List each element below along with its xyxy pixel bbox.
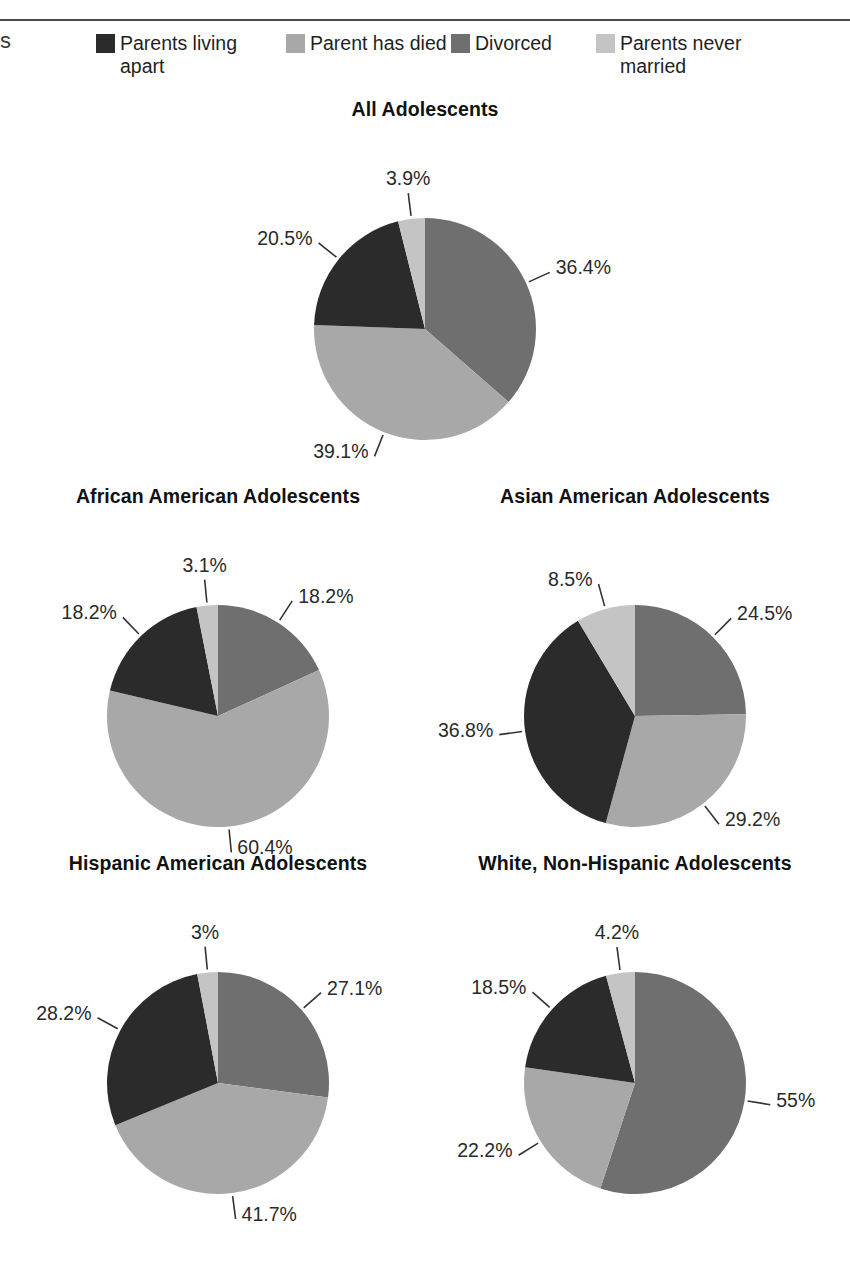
- pie-leader-line-2: [123, 617, 139, 634]
- pie-value-label-3: 3%: [191, 921, 219, 943]
- pie-leader-line-0: [304, 993, 321, 1008]
- pie-svg-4: 55%22.2%18.5%4.2%: [425, 852, 845, 1222]
- pie-slice-0[interactable]: [218, 972, 329, 1098]
- pie-value-label-3: 3.1%: [182, 554, 226, 576]
- legend-item-parent-has-died: Parent has died: [286, 32, 451, 55]
- legend-item-parents-living-apart: Parents living apart: [96, 32, 286, 78]
- pie-leader-line-3: [408, 193, 411, 216]
- pie-value-label-1: 22.2%: [457, 1139, 512, 1161]
- pie-leader-line-3: [205, 947, 207, 970]
- pie-svg-1: 18.2%60.4%18.2%3.1%: [8, 485, 428, 855]
- pie-svg-2: 24.5%29.2%36.8%8.5%: [425, 485, 845, 855]
- legend: Parents living apart Parent has died Div…: [96, 32, 796, 78]
- pie-leader-line-3: [598, 584, 604, 606]
- legend-label-2: Divorced: [475, 32, 552, 55]
- pie-leader-line-1: [229, 829, 231, 852]
- pie-value-label-1: 41.7%: [242, 1203, 297, 1222]
- pie-leader-line-3: [205, 580, 207, 603]
- legend-swatch-icon-3: [596, 34, 615, 53]
- legend-swatch-icon-1: [286, 34, 305, 53]
- pie-value-label-3: 4.2%: [595, 921, 639, 943]
- legend-label-3: Parents never married: [620, 32, 770, 78]
- legend-item-parents-never-married: Parents never married: [596, 32, 786, 78]
- pie-value-label-0: 55%: [776, 1089, 815, 1111]
- pie-value-label-0: 18.2%: [298, 585, 353, 607]
- pie-leader-line-1: [705, 806, 719, 824]
- pie-value-label-0: 36.4%: [556, 256, 611, 278]
- pie-leader-line-1: [233, 1196, 236, 1219]
- pie-value-label-3: 3.9%: [386, 167, 430, 189]
- pie-slice-0[interactable]: [635, 605, 746, 716]
- pie-leader-line-1: [519, 1143, 539, 1155]
- legend-swatch-icon-2: [451, 34, 470, 53]
- pie-chart-white-non-hispanic-adolescents: White, Non-Hispanic Adolescents 55%22.2%…: [425, 852, 845, 1222]
- pie-leader-line-2: [499, 732, 522, 735]
- pie-value-label-2: 20.5%: [257, 227, 312, 249]
- legend-swatch-icon-0: [96, 34, 115, 53]
- pie-leader-line-0: [715, 618, 731, 634]
- pie-leader-line-2: [319, 243, 337, 257]
- legend-item-divorced: Divorced: [451, 32, 596, 55]
- pie-value-label-1: 39.1%: [313, 440, 368, 462]
- page-edge-text-fragment: s: [0, 30, 11, 52]
- pie-chart-african-american-adolescents: African American Adolescents 18.2%60.4%1…: [8, 485, 428, 855]
- pie-chart-hispanic-american-adolescents: Hispanic American Adolescents 27.1%41.7%…: [8, 852, 428, 1222]
- pie-leader-line-0: [529, 272, 550, 282]
- header-divider: [0, 19, 850, 21]
- pie-value-label-0: 27.1%: [327, 977, 382, 999]
- pie-value-label-2: 36.8%: [438, 719, 493, 741]
- pie-leader-line-0: [280, 601, 292, 620]
- pie-svg-3: 27.1%41.7%28.2%3%: [8, 852, 428, 1222]
- legend-label-0: Parents living apart: [120, 32, 270, 78]
- pie-value-label-2: 18.5%: [471, 976, 526, 998]
- pie-leader-line-3: [617, 947, 620, 970]
- pie-leader-line-0: [748, 1101, 771, 1105]
- pie-value-label-3: 8.5%: [548, 568, 592, 590]
- pie-leader-line-2: [532, 992, 549, 1007]
- pie-chart-all-adolescents: All Adolescents 36.4%39.1%20.5%3.9%: [215, 98, 635, 468]
- pie-leader-line-1: [375, 435, 383, 456]
- legend-label-1: Parent has died: [310, 32, 447, 55]
- pie-value-label-0: 24.5%: [737, 602, 792, 624]
- pie-leader-line-2: [98, 1018, 118, 1029]
- pie-svg-0: 36.4%39.1%20.5%3.9%: [215, 98, 635, 468]
- pie-value-label-2: 18.2%: [62, 601, 117, 623]
- pie-value-label-2: 28.2%: [36, 1002, 91, 1024]
- pie-chart-asian-american-adolescents: Asian American Adolescents 24.5%29.2%36.…: [425, 485, 845, 855]
- pie-value-label-1: 29.2%: [725, 808, 780, 830]
